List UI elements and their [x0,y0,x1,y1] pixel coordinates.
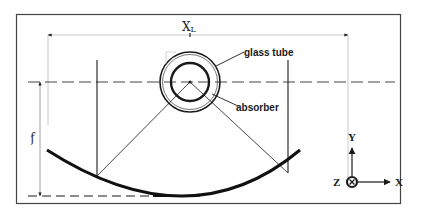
diagram-canvas: XL glass tube absorber f [0,0,427,214]
aperture-dimension: XL [48,20,348,182]
absorber-label: absorber [236,102,279,113]
absorber-leader [212,94,238,106]
focal-point [189,81,192,84]
diagram-frame [17,15,401,204]
aperture-width-label: XL [182,20,197,34]
glass-tube-leader [216,52,244,66]
coordinate-axes: Y X Z [333,131,403,188]
parabolic-mirror [47,150,300,196]
z-axis-label: Z [333,176,340,188]
y-axis-label: Y [348,131,356,143]
focal-length-dimension: f [28,82,200,196]
x-axis-label: X [395,176,403,188]
glass-tube-label: glass tube [244,47,294,58]
focal-length-label: f [28,130,39,145]
